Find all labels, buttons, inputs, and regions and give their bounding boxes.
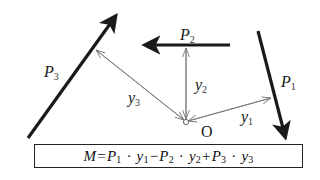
formula-equals: = [97, 148, 106, 165]
arm-y3-back [96, 50, 184, 120]
origin-point [183, 119, 188, 124]
formula-term-3: P3 · y3 [212, 148, 254, 165]
force-p3-arrow [28, 17, 115, 138]
label-y2: y2 [193, 76, 207, 95]
formula-lhs: M [84, 148, 97, 165]
formula-term-1: P1 · y1 [107, 148, 149, 165]
label-p1: P1 [280, 73, 296, 92]
formula-sign-3: + [202, 148, 211, 165]
label-y3: y3 [126, 89, 140, 108]
label-origin: O [201, 123, 213, 140]
formula-sign-2: − [150, 148, 159, 165]
label-p3: P3 [43, 63, 59, 82]
label-y1: y1 [239, 108, 253, 127]
formula-term-2: P2 · y2 [159, 148, 201, 165]
arm-y1-back [188, 98, 271, 121]
moment-formula: M = P1 · y1 − P2 · y2 + P3 · y3 [34, 144, 303, 168]
label-p2: P2 [179, 26, 195, 45]
